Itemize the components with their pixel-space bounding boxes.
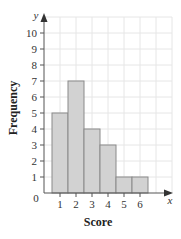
bar-score-4: [100, 145, 116, 193]
y-tick-label: 5: [32, 107, 38, 119]
x-axis-title: Score: [84, 215, 113, 229]
y-tick-label: 9: [32, 43, 38, 55]
y-tick-label: 2: [32, 155, 38, 167]
y-tick-label: 1: [32, 171, 38, 183]
x-tick-label: 1: [57, 198, 63, 210]
bar-score-3: [84, 129, 100, 193]
bar-score-2: [68, 81, 84, 193]
histogram-chart: 12345678910 123456 0 y x Frequency Score: [0, 0, 181, 239]
bar-score-5: [116, 177, 132, 193]
x-tick-label: 2: [73, 198, 79, 210]
y-axis-var-label: y: [33, 9, 39, 21]
y-tick-label: 3: [32, 139, 38, 151]
y-tick-label: 8: [32, 59, 38, 71]
y-tick-label: 4: [32, 123, 38, 135]
x-tick-label: 5: [121, 198, 127, 210]
x-axis-var-label: x: [167, 194, 173, 206]
bar-score-6: [132, 177, 148, 193]
y-tick-label: 7: [32, 75, 38, 87]
origin-label: 0: [33, 192, 39, 204]
y-tick-label: 10: [26, 27, 38, 39]
x-tick-label: 4: [105, 198, 111, 210]
y-tick-label: 6: [32, 91, 38, 103]
x-tick-label: 6: [137, 198, 143, 210]
bar-score-1: [52, 113, 68, 193]
y-ticks: 12345678910: [26, 27, 44, 183]
y-axis-title: Frequency: [6, 81, 20, 135]
bars: [52, 81, 148, 193]
x-ticks: 123456: [57, 193, 143, 210]
x-tick-label: 3: [89, 198, 95, 210]
